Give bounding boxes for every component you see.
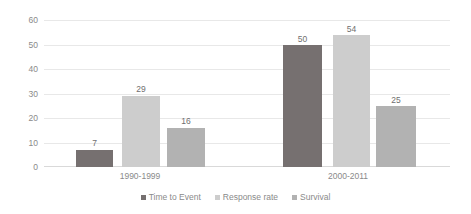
plot-area: 7 29 16 50 54 25 xyxy=(44,20,450,167)
legend-swatch-icon xyxy=(292,195,297,200)
y-tick-label: 60 xyxy=(6,16,38,25)
gridline-50 xyxy=(44,45,450,46)
legend-swatch-icon xyxy=(141,195,146,200)
bar-survival-1990-1999[interactable] xyxy=(167,128,205,167)
legend-swatch-icon xyxy=(215,195,220,200)
bar-response-rate-1990-1999[interactable] xyxy=(122,96,160,167)
bar-response-rate-2000-2011[interactable] xyxy=(333,35,370,167)
x-category-label-2: 2000-2011 xyxy=(328,172,368,181)
bar-survival-2000-2011[interactable] xyxy=(376,106,416,167)
y-tick-label: 50 xyxy=(6,40,38,49)
y-tick-label: 20 xyxy=(6,114,38,123)
gridline-40 xyxy=(44,69,450,70)
y-tick-label: 40 xyxy=(6,65,38,74)
bar-time-to-event-1990-1999[interactable] xyxy=(76,150,113,167)
bar-chart: 60 50 40 30 20 10 0 7 29 16 50 54 25 199… xyxy=(0,0,471,214)
gridline-30 xyxy=(44,94,450,95)
legend-label: Time to Event xyxy=(149,193,201,202)
bar-value-label: 50 xyxy=(298,35,307,44)
y-tick-label: 0 xyxy=(6,163,38,172)
bar-value-label: 29 xyxy=(136,85,145,94)
legend-label: Survival xyxy=(300,193,330,202)
legend-item-time-to-event[interactable]: Time to Event xyxy=(141,193,201,202)
chart-legend: Time to Event Response rate Survival xyxy=(0,193,471,202)
bar-value-label: 54 xyxy=(347,25,356,34)
gridline-60 xyxy=(44,20,450,21)
y-axis: 60 50 40 30 20 10 0 xyxy=(0,20,38,167)
y-tick-label: 30 xyxy=(6,89,38,98)
bar-value-label: 7 xyxy=(92,139,97,148)
y-tick-label: 10 xyxy=(6,138,38,147)
bar-value-label: 16 xyxy=(181,117,190,126)
x-category-label-1: 1990-1999 xyxy=(120,172,161,181)
bar-time-to-event-2000-2011[interactable] xyxy=(283,45,322,168)
legend-label: Response rate xyxy=(223,193,278,202)
bar-value-label: 25 xyxy=(391,96,400,105)
legend-item-response-rate[interactable]: Response rate xyxy=(215,193,278,202)
legend-item-survival[interactable]: Survival xyxy=(292,193,330,202)
